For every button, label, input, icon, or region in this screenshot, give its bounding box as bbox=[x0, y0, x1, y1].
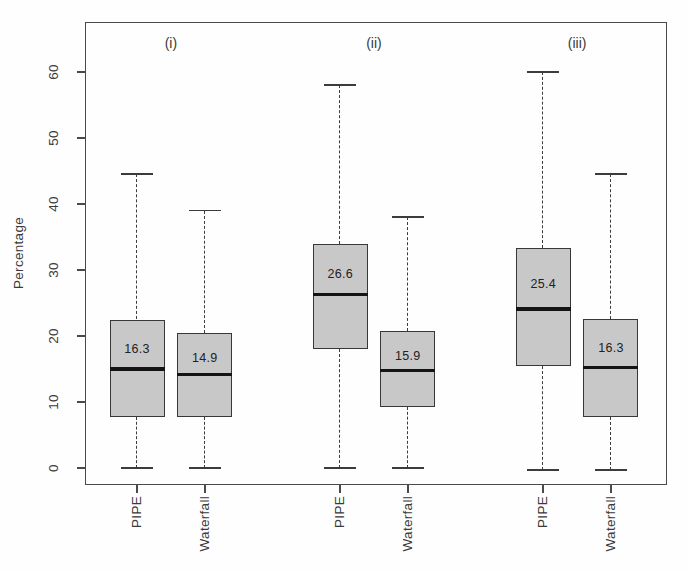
whisker-cap-upper bbox=[527, 71, 559, 73]
box bbox=[313, 244, 368, 350]
whisker-cap-lower bbox=[392, 467, 424, 469]
y-tick-label: 40 bbox=[46, 196, 61, 212]
plot-border bbox=[85, 22, 667, 485]
group-label: (iii) bbox=[568, 35, 587, 51]
x-tick bbox=[407, 485, 409, 493]
x-tick bbox=[610, 485, 612, 493]
whisker-cap-upper bbox=[392, 216, 424, 218]
y-tick-label: 50 bbox=[46, 130, 61, 146]
whisker-upper bbox=[204, 211, 205, 333]
median-line bbox=[380, 369, 435, 373]
y-tick bbox=[77, 467, 85, 469]
x-tick bbox=[204, 485, 206, 493]
whisker-upper bbox=[407, 217, 408, 331]
mean-label: 15.9 bbox=[380, 349, 435, 363]
median-line bbox=[516, 307, 571, 311]
whisker-lower bbox=[407, 407, 408, 468]
whisker-lower bbox=[339, 349, 340, 468]
y-tick-label: 20 bbox=[46, 328, 61, 344]
whisker-cap-lower bbox=[324, 467, 356, 469]
y-axis-title: Percentage bbox=[11, 217, 26, 289]
y-tick bbox=[77, 269, 85, 271]
mean-label: 16.3 bbox=[110, 342, 165, 356]
y-tick bbox=[77, 203, 85, 205]
whisker-cap-lower bbox=[189, 467, 221, 469]
mean-label: 25.4 bbox=[516, 277, 571, 291]
x-tick-label: PIPE bbox=[535, 496, 551, 528]
boxplot-figure: Percentage 010203040506016.3PIPE14.9Wate… bbox=[0, 0, 689, 570]
whisker-cap-lower bbox=[595, 469, 627, 471]
median-line bbox=[177, 373, 232, 377]
whisker-cap-lower bbox=[121, 467, 153, 469]
x-tick-label: Waterfall bbox=[400, 496, 416, 551]
group-label: (ii) bbox=[366, 35, 382, 51]
y-tick bbox=[77, 71, 85, 73]
whisker-cap-upper bbox=[324, 84, 356, 86]
whisker-lower bbox=[542, 366, 543, 470]
whisker-upper bbox=[136, 174, 137, 319]
x-tick-label: Waterfall bbox=[603, 496, 619, 551]
mean-label: 14.9 bbox=[177, 351, 232, 365]
mean-label: 26.6 bbox=[313, 267, 368, 281]
whisker-lower bbox=[136, 417, 137, 468]
whisker-cap-upper bbox=[595, 173, 627, 175]
x-tick bbox=[339, 485, 341, 493]
whisker-cap-lower bbox=[527, 469, 559, 471]
x-tick bbox=[136, 485, 138, 493]
y-tick bbox=[77, 401, 85, 403]
y-tick bbox=[77, 335, 85, 337]
median-line bbox=[313, 293, 368, 297]
mean-label: 16.3 bbox=[583, 341, 638, 355]
y-tick-label: 0 bbox=[46, 464, 61, 472]
group-label: (i) bbox=[165, 35, 177, 51]
whisker-upper bbox=[542, 72, 543, 248]
whisker-upper bbox=[610, 174, 611, 319]
whisker-cap-upper bbox=[189, 210, 221, 212]
x-tick-label: PIPE bbox=[332, 496, 348, 528]
whisker-lower bbox=[204, 417, 205, 468]
y-tick-label: 60 bbox=[46, 64, 61, 80]
x-tick-label: PIPE bbox=[129, 496, 145, 528]
median-line bbox=[583, 366, 638, 370]
x-tick bbox=[542, 485, 544, 493]
median-line bbox=[110, 367, 165, 371]
whisker-lower bbox=[610, 417, 611, 470]
y-tick-label: 10 bbox=[46, 394, 61, 410]
whisker-cap-upper bbox=[121, 173, 153, 175]
whisker-upper bbox=[339, 85, 340, 243]
x-tick-label: Waterfall bbox=[197, 496, 213, 551]
y-tick bbox=[77, 137, 85, 139]
y-tick-label: 30 bbox=[46, 262, 61, 278]
